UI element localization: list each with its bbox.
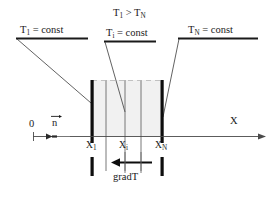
normal-vector-glyph: n [52,118,57,129]
x-axis-arrowhead [258,133,266,139]
normal-vector-label: n [52,118,57,129]
normal-vector-tail [52,135,57,137]
t1-sub: 1 [26,29,30,37]
x-axis-text: X [230,115,238,126]
plane-xn-lower [161,157,164,176]
slab-fill [92,80,162,137]
normal-vector-letter: n [52,117,57,128]
xi-tick-label: Xi [119,141,128,151]
vector-overarrow-icon [51,113,62,118]
gradt-text: gradT [113,171,138,182]
origin-text: 0 [29,118,34,129]
xi-sub: i [126,144,128,152]
figure-canvas: T1 > TN T1 = const Ti = const TN = const… [0,0,274,198]
temperature-relation-label: T1 > TN [113,8,146,19]
relation-operator: > [123,7,134,18]
x-axis-label: X [230,116,238,127]
ti-const-label: Ti = const [106,28,148,39]
xn-tick-label: XN [155,141,167,151]
x1-tick-label: X1 [86,141,96,151]
ti-rest: = const [114,27,147,38]
plane-x1-upper [91,80,94,143]
xn-base: X [155,140,162,150]
xi-base: X [119,140,126,150]
t1-rest: = const [30,24,63,35]
x1-sub: 1 [93,144,97,152]
relation-sub-left: 1 [119,12,123,20]
plane-xn-upper [161,80,164,143]
t1-leader-line [17,39,91,103]
tn-sub: N [194,29,199,37]
x1-base: X [86,140,93,150]
gradt-arrowhead [111,158,120,166]
tn-rest: = const [200,24,233,35]
relation-sub-right: N [140,12,145,20]
tn-leader-line [163,39,179,117]
gradt-label: gradT [113,172,138,183]
origin-label: 0 [29,119,34,130]
plane-x1-lower [91,157,94,176]
tn-const-label: TN = const [188,25,233,36]
t1-const-label: T1 = const [20,25,63,36]
xn-sub: N [162,144,167,152]
normal-vector-arrowhead [46,134,53,140]
